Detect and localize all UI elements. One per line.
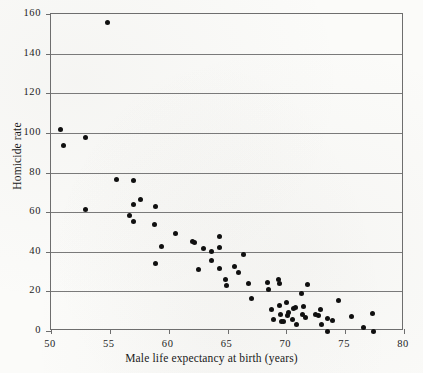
y-axis-tick xyxy=(46,54,51,55)
data-point xyxy=(336,298,341,303)
data-point xyxy=(114,177,119,182)
x-axis-tick-label: 80 xyxy=(383,339,423,350)
data-point xyxy=(105,20,110,25)
data-point xyxy=(153,204,158,209)
y-axis-tick-label: 20 xyxy=(0,285,41,296)
data-point xyxy=(127,213,132,218)
data-point xyxy=(209,258,214,263)
data-point xyxy=(241,252,246,257)
data-point xyxy=(349,314,354,319)
data-point xyxy=(138,197,143,202)
y-axis-title: Homicide rate xyxy=(11,86,23,226)
data-point xyxy=(223,277,228,282)
data-point xyxy=(294,322,299,327)
x-axis-tick xyxy=(228,329,229,334)
data-point xyxy=(217,245,222,250)
plot-area xyxy=(50,13,403,330)
scatter-plot-figure: 020406080100120140160 50556065707580 Hom… xyxy=(0,0,423,373)
data-point xyxy=(265,280,270,285)
gridline xyxy=(51,133,402,134)
data-point xyxy=(173,231,178,236)
data-point xyxy=(131,178,136,183)
y-axis-tick xyxy=(46,14,51,15)
gridline xyxy=(51,54,402,55)
data-point xyxy=(217,234,222,239)
gridline xyxy=(51,291,402,292)
data-point xyxy=(361,325,366,330)
data-point xyxy=(281,319,286,324)
data-point xyxy=(249,296,254,301)
data-point xyxy=(209,249,214,254)
data-point xyxy=(201,246,206,251)
data-point xyxy=(192,240,197,245)
data-point xyxy=(131,219,136,224)
x-axis-tick-label: 65 xyxy=(207,339,247,350)
data-point xyxy=(277,281,282,286)
data-point xyxy=(301,304,306,309)
data-point xyxy=(83,207,88,212)
data-point xyxy=(83,135,88,140)
data-point xyxy=(278,312,283,317)
data-point xyxy=(159,244,164,249)
x-axis-tick xyxy=(110,329,111,334)
data-point xyxy=(58,127,63,132)
data-point xyxy=(371,329,376,334)
y-axis-tick-label: 160 xyxy=(0,8,41,19)
data-point xyxy=(330,318,335,323)
y-axis-tick xyxy=(46,212,51,213)
x-axis-tick xyxy=(286,329,287,334)
data-point xyxy=(284,300,289,305)
y-axis-tick xyxy=(46,133,51,134)
data-point xyxy=(316,313,321,318)
data-point xyxy=(224,283,229,288)
data-point xyxy=(232,264,237,269)
data-point xyxy=(370,311,375,316)
data-point xyxy=(277,303,282,308)
data-point xyxy=(131,202,136,207)
data-point xyxy=(319,322,324,327)
data-point xyxy=(153,261,158,266)
y-axis-tick-label: 0 xyxy=(0,325,41,336)
y-axis-tick xyxy=(46,291,51,292)
y-axis-tick-label: 40 xyxy=(0,246,41,257)
data-point xyxy=(293,305,298,310)
data-point xyxy=(318,307,323,312)
data-point xyxy=(246,281,251,286)
data-point xyxy=(217,266,222,271)
data-point xyxy=(299,291,304,296)
data-point xyxy=(269,307,274,312)
y-axis-tick xyxy=(46,93,51,94)
x-axis-tick xyxy=(345,329,346,334)
data-point xyxy=(325,329,330,334)
data-point xyxy=(286,310,291,315)
gridline xyxy=(51,252,402,253)
data-point xyxy=(236,270,241,275)
data-point xyxy=(61,143,66,148)
data-point xyxy=(305,282,310,287)
x-axis-tick-label: 70 xyxy=(265,339,305,350)
y-axis-tick xyxy=(46,252,51,253)
x-axis-tick-label: 55 xyxy=(89,339,129,350)
gridline xyxy=(51,173,402,174)
y-axis-tick-label: 140 xyxy=(0,48,41,59)
x-axis-tick-label: 75 xyxy=(324,339,364,350)
data-point xyxy=(303,315,308,320)
data-point xyxy=(196,267,201,272)
y-axis-tick xyxy=(46,173,51,174)
gridline xyxy=(51,93,402,94)
x-axis-tick-label: 50 xyxy=(30,339,70,350)
data-point xyxy=(152,222,157,227)
x-axis-title: Male life expectancy at birth (years) xyxy=(0,352,423,364)
x-axis-tick xyxy=(404,329,405,334)
data-point xyxy=(271,317,276,322)
gridline xyxy=(51,212,402,213)
x-axis-tick xyxy=(51,329,52,334)
x-axis-tick-label: 60 xyxy=(148,339,188,350)
x-axis-tick xyxy=(169,329,170,334)
data-point xyxy=(290,317,295,322)
